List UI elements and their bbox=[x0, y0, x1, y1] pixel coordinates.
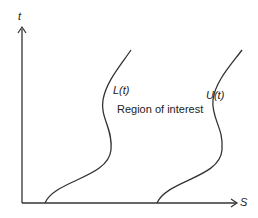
upper-bound-curve bbox=[157, 50, 242, 203]
lower-bound-curve bbox=[45, 50, 131, 203]
s-axis-label: S bbox=[240, 197, 247, 208]
lower-bound-label: L(t) bbox=[113, 85, 130, 96]
region-of-interest-label: Region of interest bbox=[117, 104, 203, 115]
upper-bound-label: U(t) bbox=[206, 90, 224, 101]
t-axis-label: t bbox=[18, 11, 21, 22]
